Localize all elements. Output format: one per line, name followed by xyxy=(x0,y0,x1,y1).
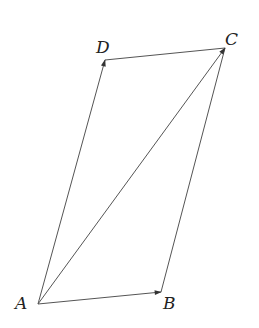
label-b: B xyxy=(162,293,176,313)
segment-bc xyxy=(161,48,225,292)
vector-ad xyxy=(38,60,105,304)
label-c: C xyxy=(225,29,238,49)
segment-dc xyxy=(105,48,225,60)
vector-ab xyxy=(38,292,161,304)
parallelogram-diagram: A B C D xyxy=(0,0,259,328)
vector-ac xyxy=(38,48,225,304)
label-a: A xyxy=(13,293,27,313)
label-d: D xyxy=(95,37,110,57)
